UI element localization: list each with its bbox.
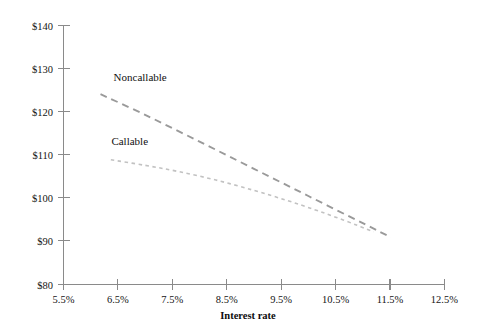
noncallable-line — [101, 94, 392, 237]
callable-line — [111, 160, 374, 232]
x-tick-label-9-5: 9.5% — [270, 294, 292, 305]
x-tick-label-11-5: 11.5% — [377, 294, 404, 305]
x-axis-title: Interest rate — [220, 310, 276, 321]
noncallable-series-label: Noncallable — [114, 71, 167, 83]
x-tick-label-12-5: 12.5% — [431, 294, 458, 305]
x-tick-label-10-5: 10.5% — [322, 294, 349, 305]
y-tick-label-110: $110 — [32, 150, 53, 161]
x-tick-label-7-5: 7.5% — [161, 294, 183, 305]
x-tick-label-6-5: 6.5% — [107, 294, 129, 305]
y-tick-label-90: $90 — [37, 236, 53, 247]
y-tick-label-80: $80 — [37, 280, 53, 291]
callable-series-label: Callable — [111, 135, 148, 147]
x-tick-label-8-5: 8.5% — [216, 294, 238, 305]
x-tick-label-5-5: 5.5% — [53, 294, 75, 305]
price-vs-interest-rate-chart: $140 $130 $120 $110 $100 $90 $80 5.5% 6.… — [0, 0, 478, 334]
axes-group — [64, 26, 445, 285]
y-tick-label-140: $140 — [32, 21, 53, 32]
data-series-group — [101, 94, 392, 237]
chart-figure: $140 $130 $120 $110 $100 $90 $80 5.5% 6.… — [0, 0, 478, 334]
y-axis-tick-labels: $140 $130 $120 $110 $100 $90 $80 — [32, 21, 53, 291]
y-tick-label-120: $120 — [32, 107, 53, 118]
y-tick-label-130: $130 — [32, 64, 53, 75]
y-tick-label-100: $100 — [32, 193, 53, 204]
x-axis-tick-labels: 5.5% 6.5% 7.5% 8.5% 9.5% 10.5% 11.5% 12.… — [53, 294, 459, 305]
